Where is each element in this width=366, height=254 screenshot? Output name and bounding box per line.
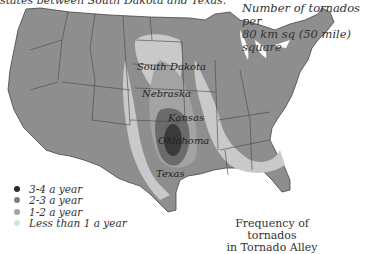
caption-line-1: Frequency of tornados — [209, 218, 335, 242]
subtitle-line-1: Number of tornados per — [242, 2, 366, 28]
label-texas: Texas — [156, 168, 185, 179]
legend-swatch-icon — [14, 220, 20, 226]
label-oklahoma: Oklahoma — [158, 135, 209, 146]
legend-item-3-4: 3-4 a year — [14, 183, 127, 195]
legend-swatch-icon — [14, 209, 20, 215]
label-nebraska: Nebraska — [142, 88, 191, 99]
legend-label: 2-3 a year — [29, 194, 82, 206]
legend-label: Less than 1 a year — [29, 217, 127, 229]
legend-label: 3-4 a year — [29, 183, 82, 195]
legend-swatch-icon — [14, 197, 20, 203]
caption-line-2: in Tornado Alley — [209, 242, 335, 254]
subtitle-line-2: 80 km sq (50 mile) square — [242, 28, 366, 54]
legend-item-2-3: 2-3 a year — [14, 195, 127, 207]
map-subtitle: Number of tornados per 80 km sq (50 mile… — [242, 2, 366, 54]
label-south-dakota: South Dakota — [137, 61, 206, 72]
label-kansas: Kansas — [168, 112, 204, 123]
legend-label: 1-2 a year — [29, 206, 82, 218]
legend: 3-4 a year 2-3 a year 1-2 a year Less th… — [14, 183, 127, 229]
map-caption: Frequency of tornados in Tornado Alley — [209, 218, 335, 254]
legend-item-1-2: 1-2 a year — [14, 206, 127, 218]
legend-swatch-icon — [14, 186, 20, 192]
legend-item-less-than-1: Less than 1 a year — [14, 218, 127, 230]
